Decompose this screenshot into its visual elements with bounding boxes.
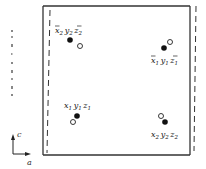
filled-atom-icon: [161, 45, 167, 51]
atom-pair-bottom-right: x2 y2 z2: [151, 114, 178, 141]
c-axis-arrow-icon: [11, 134, 15, 140]
a-axis-arrow-icon: [25, 152, 31, 156]
atom-pair-top-right: x1 y1 z1: [151, 40, 178, 67]
atom-pair-top-left: x2 y2 z2: [55, 26, 83, 49]
c-axis-label: c: [17, 130, 22, 139]
cropped-margin-text: [11, 30, 13, 96]
open-atom-icon: [78, 44, 83, 49]
dashed-left-edge: [47, 10, 50, 153]
filled-atom-icon: [162, 119, 168, 125]
unit-cell-diagram: x2 y2 z2x1 y1 z1x1 y1 z1x2 y2 z2 c a: [0, 0, 206, 169]
atom-pair-bottom-left: x1 y1 z1: [64, 101, 91, 125]
dashed-right-edge: [194, 6, 196, 151]
filled-atom-icon: [67, 37, 73, 43]
coordinate-label-top-left: x2 y2 z2: [55, 26, 82, 36]
axis-indicator: c a: [11, 130, 32, 167]
open-atom-icon: [159, 114, 164, 119]
open-atom-icon: [71, 120, 76, 125]
atom-positions: x2 y2 z2x1 y1 z1x1 y1 z1x2 y2 z2: [55, 26, 178, 140]
coordinate-label-bottom-right: x2 y2 z2: [151, 130, 178, 140]
coordinate-label-bottom-left: x1 y1 z1: [64, 101, 91, 111]
a-axis-label: a: [27, 158, 32, 167]
open-atom-icon: [168, 40, 173, 45]
coordinate-label-top-right: x1 y1 z1: [151, 56, 178, 66]
filled-atom-icon: [74, 113, 80, 119]
